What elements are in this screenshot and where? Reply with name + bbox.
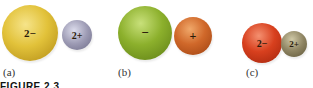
- charge-label: 2+: [289, 39, 299, 49]
- panel-label-a: (a): [3, 66, 15, 78]
- charge-label: 2+: [72, 30, 83, 41]
- sphere-a-cation: 2+: [62, 20, 92, 50]
- charge-label: 2−: [24, 27, 36, 39]
- sphere-c-cation: 2+: [281, 31, 307, 57]
- sphere-b-cation: +: [174, 17, 212, 55]
- panel-label-b: (b): [118, 66, 131, 78]
- charge-label: 2−: [257, 38, 268, 49]
- sphere-c-anion: 2−: [242, 23, 282, 63]
- sphere-a-anion: 2−: [2, 5, 58, 61]
- charge-label: −: [141, 25, 148, 41]
- panel-label-c: (c): [246, 66, 258, 78]
- sphere-b-anion: −: [118, 6, 172, 60]
- figure-caption: FIGURE 2.3: [0, 81, 59, 88]
- charge-label: +: [190, 29, 197, 44]
